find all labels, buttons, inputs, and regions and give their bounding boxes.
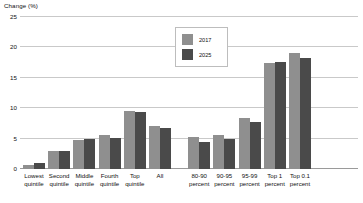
bar-chart: Change (%) 0510152025 LowestquintileSeco… <box>0 0 363 203</box>
bar <box>73 140 84 169</box>
legend-label-2025: 2025 <box>199 52 211 58</box>
bar-group <box>149 17 171 169</box>
y-axis-tick-label: 20 <box>2 44 17 50</box>
bar <box>275 62 286 169</box>
bar <box>199 142 210 169</box>
y-axis-tick-label: 25 <box>2 14 17 20</box>
bar <box>99 135 110 169</box>
bar <box>188 137 199 169</box>
bar <box>48 151 59 169</box>
bar <box>84 139 95 169</box>
y-axis-title: Change (%) <box>4 2 38 9</box>
bar <box>264 63 275 169</box>
bar-group <box>239 17 261 169</box>
legend-swatch-2017-icon <box>182 34 193 45</box>
y-axis-tick-label: 5 <box>2 136 17 142</box>
bar <box>34 163 45 169</box>
bar-group <box>289 17 311 169</box>
bar <box>124 111 135 169</box>
bar <box>224 139 235 169</box>
y-axis-tick-label: 15 <box>2 75 17 81</box>
bar <box>300 58 311 169</box>
x-axis-labels: LowestquintileSecondquintileMiddlequinti… <box>20 172 358 198</box>
bar <box>250 122 261 169</box>
bar <box>59 151 70 169</box>
bar-group <box>124 17 146 169</box>
legend-swatch-2025-icon <box>182 49 193 60</box>
bar <box>160 128 171 169</box>
x-axis-label: All <box>144 172 176 180</box>
bar <box>239 118 250 169</box>
y-axis-tick-label: 0 <box>2 166 17 172</box>
y-axis-tick-label: 10 <box>2 105 17 111</box>
bar <box>135 112 146 169</box>
bar <box>289 53 300 169</box>
bar-group <box>23 17 45 169</box>
bar-group <box>73 17 95 169</box>
legend-label-2017: 2017 <box>199 37 211 43</box>
x-axis-label: Top 0.1percent <box>284 172 316 187</box>
bar <box>149 126 160 169</box>
bar <box>23 165 34 169</box>
bar-group <box>48 17 70 169</box>
bar-group <box>99 17 121 169</box>
bar <box>213 135 224 169</box>
legend: 2017 2025 <box>175 27 228 67</box>
bar <box>110 138 121 169</box>
bar-group <box>264 17 286 169</box>
